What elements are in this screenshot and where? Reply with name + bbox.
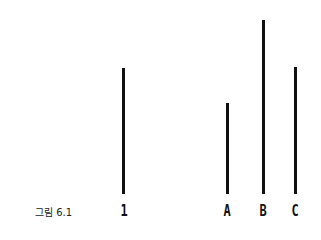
- label-a: A: [223, 202, 230, 220]
- label-1: 1: [120, 202, 127, 220]
- comparison-line-c: [294, 67, 297, 194]
- label-b: B: [259, 202, 266, 220]
- label-c: C: [291, 202, 298, 220]
- comparison-line-a: [226, 103, 229, 194]
- reference-line-1: [122, 68, 125, 194]
- comparison-line-b: [262, 20, 265, 194]
- figure-caption: 그림 6.1: [35, 204, 72, 219]
